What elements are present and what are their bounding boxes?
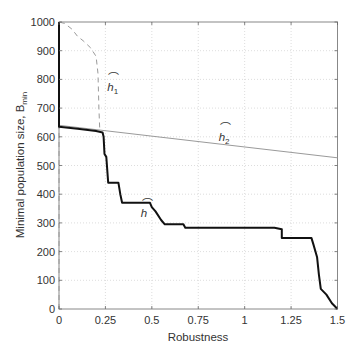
y-tick-label: 200: [37, 246, 55, 258]
x-tick-label: 0: [56, 314, 62, 326]
x-tick-label: 1.25: [280, 314, 301, 326]
y-tick-label: 800: [37, 73, 55, 85]
x-tick-label: 0.25: [95, 314, 116, 326]
y-axis-label: Minimal population size, Bmin: [14, 92, 29, 238]
y-tick-label: 100: [37, 274, 55, 286]
x-axis-label: Robustness: [168, 331, 229, 343]
curve-labels: h1⌒h2⌒h⌒: [107, 72, 230, 219]
y-tick-label: 0: [49, 303, 55, 315]
y-tick-label: 700: [37, 102, 55, 114]
x-tick-label: 1: [242, 314, 248, 326]
y-tick-label: 1000: [31, 16, 55, 28]
y-tick-label: 900: [37, 45, 55, 57]
hat-accent: ⌒: [108, 72, 119, 84]
hat-accent: ⌒: [142, 198, 153, 210]
x-tick-label: 0.5: [144, 314, 159, 326]
y-tick-label: 600: [37, 131, 55, 143]
x-tick-label: 1.5: [330, 314, 345, 326]
y-tick-label: 300: [37, 217, 55, 229]
hat-accent: ⌒: [220, 122, 231, 134]
chart: 00.250.50.7511.251.5 0100200300400500600…: [0, 0, 361, 357]
grid-lines: [59, 22, 338, 309]
y-axis-ticks: 01002003004005006007008009001000: [31, 16, 338, 315]
x-tick-label: 0.75: [188, 314, 209, 326]
y-tick-label: 500: [37, 160, 55, 172]
y-tick-label: 400: [37, 188, 55, 200]
